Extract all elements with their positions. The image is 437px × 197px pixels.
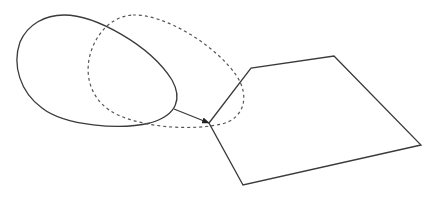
diagram-canvas — [0, 0, 437, 197]
solid-loop-shape — [17, 15, 177, 126]
arrow-connector — [174, 109, 209, 123]
pentagon-shape — [209, 56, 421, 185]
